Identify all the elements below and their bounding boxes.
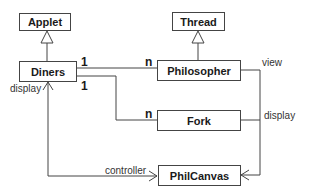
view-line-philosopher-philcanvas (240, 70, 260, 175)
inheritance-arrow-applet-icon (41, 31, 53, 43)
multiplicity-diners-philosopher: 1 (81, 56, 88, 68)
class-thread-label: Thread (180, 16, 217, 28)
class-fork-label: Fork (187, 115, 211, 127)
label-view: view (262, 58, 282, 68)
multiplicity-diners-fork: 1 (81, 80, 88, 92)
label-display-diners: display (10, 84, 41, 94)
class-thread: Thread (172, 12, 225, 31)
label-controller: controller (105, 166, 146, 176)
label-display-fork: display (264, 111, 295, 121)
multiplicity-philosopher: n (145, 56, 152, 68)
class-philosopher-label: Philosopher (167, 65, 231, 77)
class-philosopher: Philosopher (157, 60, 241, 81)
class-diners: Diners (19, 61, 77, 82)
class-applet-label: Applet (28, 16, 62, 28)
inheritance-arrow-thread-icon (192, 31, 204, 43)
multiplicity-fork: n (145, 108, 152, 120)
class-philcanvas-label: PhilCanvas (170, 170, 229, 182)
class-fork: Fork (157, 110, 241, 131)
class-applet: Applet (19, 13, 71, 31)
controller-display-line (48, 82, 157, 176)
class-diners-label: Diners (31, 66, 65, 78)
class-philcanvas: PhilCanvas (158, 165, 241, 186)
